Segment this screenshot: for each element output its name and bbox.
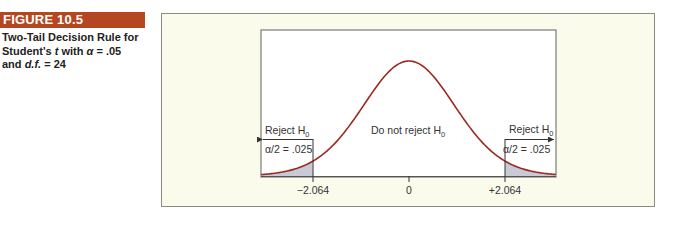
tick-label-right: +2.064: [489, 184, 522, 196]
t-distribution-chart: Reject H0 α/2 = .025 Do not reject H0 Re…: [0, 0, 673, 226]
tick-label-left: −2.064: [297, 184, 330, 196]
alpha-right-label: α/2 = .025: [503, 143, 550, 155]
tick-label-center: 0: [406, 184, 412, 196]
alpha-left-label: α/2 = .025: [265, 143, 312, 155]
